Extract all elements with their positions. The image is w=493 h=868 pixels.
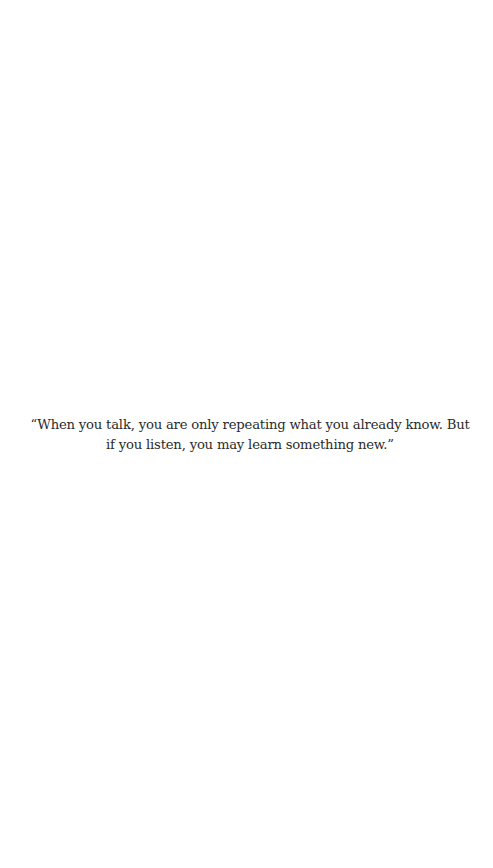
quote-text: “When you talk, you are only repeating w…: [30, 415, 470, 455]
quote-screen: “When you talk, you are only repeating w…: [0, 0, 493, 868]
